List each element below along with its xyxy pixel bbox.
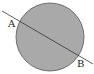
- label-b: B: [77, 58, 84, 69]
- circle: [16, 3, 84, 71]
- label-a: A: [7, 18, 16, 29]
- circle-chord-diagram: A B: [0, 0, 94, 74]
- diagram: A B: [0, 0, 94, 74]
